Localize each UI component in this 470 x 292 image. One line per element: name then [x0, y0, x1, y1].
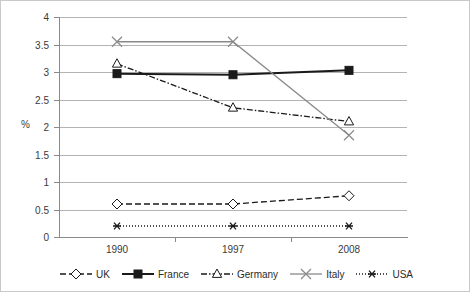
legend-item-usa[interactable]: USA: [355, 267, 413, 281]
y-tick-label: 3.5: [35, 39, 49, 50]
series-uk: [112, 191, 354, 209]
legend-item-italy[interactable]: Italy: [289, 267, 344, 281]
y-axis-title: %: [21, 119, 30, 130]
legend-label: France: [158, 269, 189, 280]
legend-swatch-uk: [59, 267, 93, 281]
legend-swatch-germany: [200, 267, 234, 281]
y-tick-label: 4: [43, 12, 49, 23]
diamond-open-marker: [344, 191, 354, 201]
series-usa: [113, 223, 353, 230]
legend-label: Germany: [237, 269, 278, 280]
legend-label: UK: [96, 269, 110, 280]
asterisk-marker: [113, 223, 121, 230]
y-tick-label: 1.5: [35, 149, 49, 160]
legend-swatch-italy: [289, 267, 323, 281]
plot-area: [59, 17, 407, 237]
line-chart: % 00.511.522.533.54 199019972008 UKFranc…: [0, 0, 470, 292]
asterisk-marker: [345, 223, 353, 230]
series-germany: [112, 59, 353, 125]
y-tick-label: 2: [43, 122, 49, 133]
diamond-open-marker: [112, 199, 122, 209]
x-tick-label: 1997: [222, 244, 244, 255]
y-tick-label: 2.5: [35, 94, 49, 105]
y-tick-label: 1: [43, 177, 49, 188]
x-tick-mark: [291, 237, 292, 242]
y-tick-label: 0.5: [35, 204, 49, 215]
chart-legend: UKFranceGermanyItalyUSA: [1, 267, 470, 281]
cross-x-marker: [344, 130, 354, 140]
legend-item-germany[interactable]: Germany: [200, 267, 278, 281]
x-axis-line: [59, 237, 408, 238]
y-tick-label: 0: [43, 232, 49, 243]
legend-swatch-france: [121, 267, 155, 281]
diamond-open-marker: [71, 269, 81, 279]
square-filled-marker: [345, 66, 353, 74]
series-layer: [59, 17, 407, 237]
x-tick-label: 1990: [106, 244, 128, 255]
x-tick-mark: [175, 237, 176, 242]
legend-label: Italy: [326, 269, 344, 280]
legend-swatch-usa: [355, 267, 389, 281]
triangle-open-marker: [212, 269, 221, 277]
square-filled-marker: [113, 70, 121, 78]
x-tick-label: 2008: [338, 244, 360, 255]
legend-item-france[interactable]: France: [121, 267, 189, 281]
asterisk-marker: [229, 223, 237, 230]
diamond-open-marker: [228, 199, 238, 209]
triangle-open-marker: [112, 59, 121, 67]
legend-item-uk[interactable]: UK: [59, 267, 110, 281]
square-filled-marker: [229, 71, 237, 79]
legend-label: USA: [392, 269, 413, 280]
series-italy: [112, 37, 354, 141]
asterisk-marker: [368, 271, 376, 278]
triangle-open-marker: [344, 117, 353, 125]
series-france: [113, 66, 353, 78]
y-tick-label: 3: [43, 67, 49, 78]
series-line: [117, 42, 349, 136]
square-filled-marker: [134, 270, 142, 278]
